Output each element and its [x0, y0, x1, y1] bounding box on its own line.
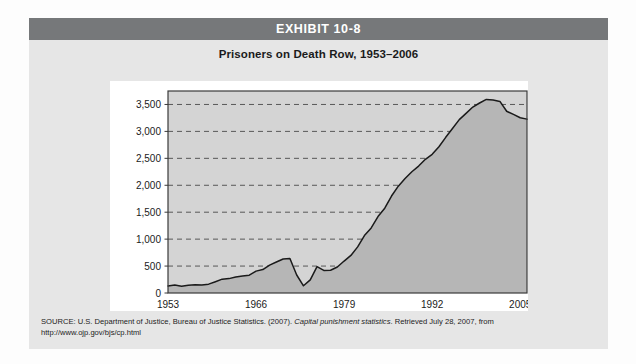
- figure-subtitle: Prisoners on Death Row, 1953–2006: [29, 48, 608, 60]
- svg-text:1979: 1979: [333, 299, 356, 310]
- source-note: SOURCE: U.S. Department of Justice, Bure…: [41, 316, 597, 338]
- exhibit-banner-title: EXHIBIT 10-8: [29, 18, 608, 40]
- svg-text:1953: 1953: [157, 299, 180, 310]
- exhibit-banner: EXHIBIT 10-8: [29, 18, 608, 40]
- chart-panel: 05001,0001,5002,0002,5003,0003,500 19531…: [110, 81, 528, 311]
- exhibit-card: EXHIBIT 10-8 Prisoners on Death Row, 195…: [29, 18, 608, 349]
- source-url: http://www.ojp.gov/bjs/cp.html: [41, 328, 141, 337]
- svg-text:500: 500: [144, 261, 161, 272]
- svg-text:1,000: 1,000: [136, 234, 161, 245]
- svg-text:1966: 1966: [245, 299, 268, 310]
- svg-text:3,000: 3,000: [136, 126, 161, 137]
- page-root: EXHIBIT 10-8 Prisoners on Death Row, 195…: [0, 0, 636, 364]
- svg-text:2,000: 2,000: [136, 180, 161, 191]
- source-prefix: SOURCE: U.S. Department of Justice, Bure…: [41, 317, 294, 326]
- death-row-area-chart: 05001,0001,5002,0002,5003,0003,500 19531…: [110, 81, 528, 311]
- svg-text:2,500: 2,500: [136, 153, 161, 164]
- svg-text:2005: 2005: [509, 299, 528, 310]
- source-italic-title: Capital punishment statistics: [294, 317, 390, 326]
- svg-text:1992: 1992: [421, 299, 444, 310]
- source-suffix: . Retrieved July 28, 2007, from: [390, 317, 493, 326]
- svg-text:0: 0: [155, 288, 161, 299]
- svg-text:1,500: 1,500: [136, 207, 161, 218]
- svg-text:3,500: 3,500: [136, 99, 161, 110]
